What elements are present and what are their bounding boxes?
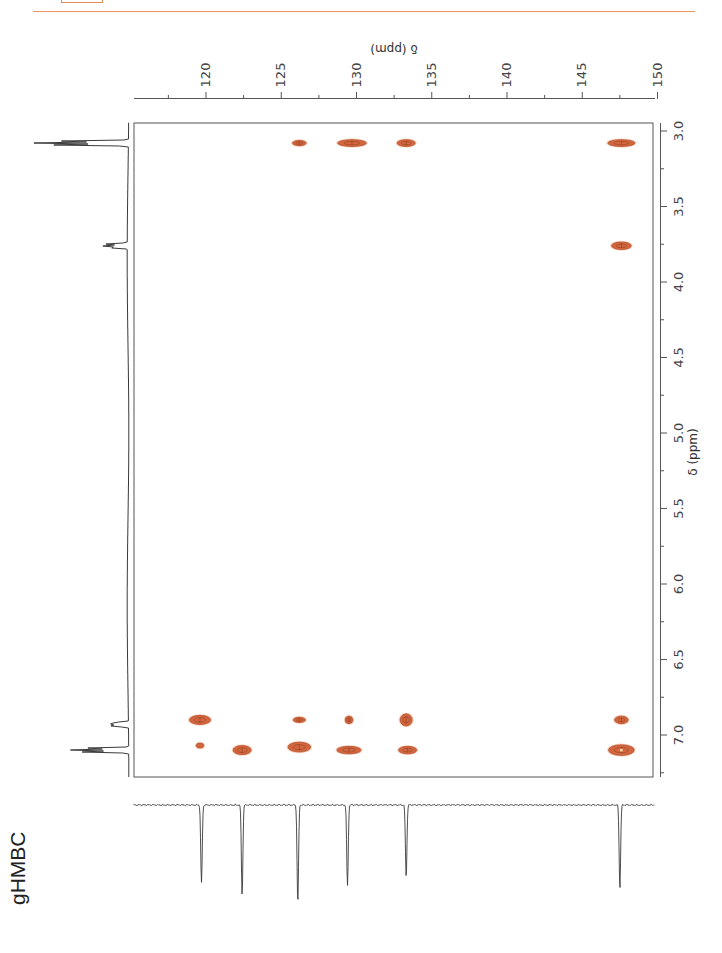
cross-peak	[336, 138, 368, 147]
x-axis-top: 120125130135140145150	[134, 63, 665, 99]
carbon-projection-spectrum	[134, 804, 654, 899]
x-tick-label: 130	[349, 63, 364, 88]
cross-peak	[396, 138, 417, 147]
x-tick-label: 145	[574, 63, 589, 88]
y-axis-right: 3.03.54.04.55.05.56.06.57.0	[660, 121, 686, 777]
cross-peak	[291, 139, 308, 147]
cross-peak	[335, 745, 362, 755]
proton-projection-spectrum	[34, 123, 129, 777]
x-tick-label: 125	[273, 63, 288, 88]
cross-peak	[287, 741, 313, 753]
y-tick-label: 6.5	[671, 649, 686, 670]
cross-peak	[606, 138, 636, 147]
y-tick-label: 4.0	[671, 272, 686, 293]
cross-peak	[292, 716, 307, 724]
x-axis-title: δ (ppm)	[370, 42, 417, 56]
x-tick-label: 140	[499, 63, 514, 88]
cross-peak	[399, 713, 414, 727]
experiment-label: gHMBC	[6, 831, 30, 905]
y-tick-label: 6.0	[671, 574, 686, 595]
cross-peak	[195, 742, 206, 749]
y-tick-label: 3.5	[671, 196, 686, 217]
y-tick-label: 7.0	[671, 725, 686, 746]
cross-peak	[232, 744, 253, 755]
cross-peak	[610, 241, 633, 251]
y-axis-title: δ (ppm)	[686, 428, 700, 475]
y-tick-label: 5.0	[671, 423, 686, 444]
cross-peak	[344, 715, 355, 725]
y-tick-label: 4.5	[671, 347, 686, 368]
cross-peak	[397, 745, 418, 755]
cross-peak	[613, 715, 630, 725]
y-tick-label: 5.5	[671, 498, 686, 519]
cross-peak	[607, 744, 636, 757]
x-tick-label: 150	[650, 63, 665, 88]
cross-peak-layer	[188, 138, 636, 756]
cross-peak	[188, 714, 212, 725]
x-tick-label: 135	[424, 63, 439, 88]
y-tick-label: 3.0	[671, 121, 686, 142]
hmbc-chart: δ (ppm) 120125130135140145150 3.03.54.04…	[0, 0, 722, 953]
x-tick-label: 120	[198, 63, 213, 88]
plot-frame	[134, 123, 653, 777]
